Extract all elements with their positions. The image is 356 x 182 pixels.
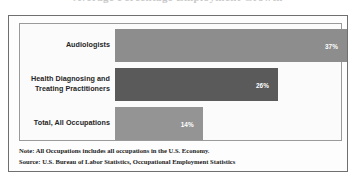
bar-value-label: 14% <box>181 120 194 127</box>
bar-value-label: 26% <box>256 81 269 88</box>
footnote-block: Note: All Occupations includes all occup… <box>19 146 339 167</box>
document-frame: Audiologists 37% Health Diagnosing and T… <box>8 15 348 172</box>
bar-category-label: Total, All Occupations <box>20 104 113 142</box>
bar-category-label: Health Diagnosing and Treating Practitio… <box>20 65 113 103</box>
bar-category-label: Audiologists <box>20 26 113 64</box>
bar-category-label-line1: Health Diagnosing and <box>31 74 110 84</box>
footnote-note: Note: All Occupations includes all occup… <box>19 146 339 157</box>
bar-row: Audiologists 37% <box>20 26 341 64</box>
bar-category-label-line1: Total, All Occupations <box>34 118 110 128</box>
bar-category-label-line2: Treating Practitioners <box>31 84 110 94</box>
bar-row: Health Diagnosing and Treating Practitio… <box>20 65 341 103</box>
bar-category-label-line1: Audiologists <box>66 40 110 50</box>
cut-off-title: Average Percentage Employment Growth <box>0 0 356 3</box>
chart-plot-area: Audiologists 37% Health Diagnosing and T… <box>19 23 342 141</box>
bar-health-diagnosing-treating-practitioners: 26% <box>115 68 278 101</box>
bar-value-label: 37% <box>325 42 338 49</box>
bar-row: Total, All Occupations 14% <box>20 104 341 142</box>
bar-audiologists: 37% <box>115 29 347 62</box>
bar-total-all-occupations: 14% <box>115 107 203 140</box>
footnote-source: Source: U.S. Bureau of Labor Statistics,… <box>19 157 339 168</box>
